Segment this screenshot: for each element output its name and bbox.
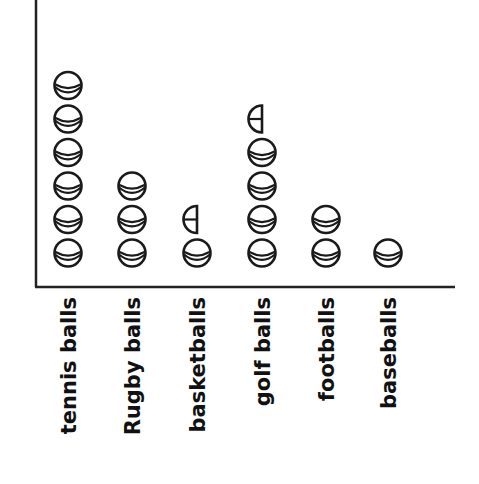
ball-icon: [313, 240, 340, 267]
column-tennis-balls: [55, 72, 82, 267]
category-labels: tennis ballsRugby ballsbasketballsgolf b…: [57, 297, 401, 435]
ball-icon: [119, 206, 146, 233]
pictograph-chart: tennis ballsRugby ballsbasketballsgolf b…: [0, 0, 479, 484]
ball-icon: [249, 206, 276, 233]
ball-icon: [249, 240, 276, 267]
ball-icon: [55, 139, 82, 166]
ball-icon: [375, 240, 402, 267]
ball-icon: [55, 206, 82, 233]
column-rugby-balls: [119, 173, 146, 267]
ball-icon: [119, 173, 146, 200]
category-label: tennis balls: [57, 297, 81, 434]
column-baseballs: [375, 240, 402, 267]
category-label: basketballs: [186, 297, 210, 433]
pictograph-symbols: [55, 72, 402, 267]
ball-icon: [313, 206, 340, 233]
column-golf-balls: [249, 106, 276, 267]
category-label: golf balls: [251, 297, 275, 406]
ball-icon: [249, 139, 276, 166]
half-ball-icon: [184, 206, 198, 233]
ball-icon: [55, 72, 82, 99]
ball-icon: [184, 240, 211, 267]
ball-icon: [249, 173, 276, 200]
ball-icon: [55, 173, 82, 200]
category-label: Rugby balls: [121, 297, 145, 435]
category-label: baseballs: [377, 297, 401, 409]
ball-icon: [55, 106, 82, 133]
half-ball-icon: [249, 106, 263, 133]
ball-icon: [119, 240, 146, 267]
column-footballs: [313, 206, 340, 267]
ball-icon: [55, 240, 82, 267]
category-label: footballs: [315, 297, 339, 401]
column-basketballs: [184, 206, 211, 267]
